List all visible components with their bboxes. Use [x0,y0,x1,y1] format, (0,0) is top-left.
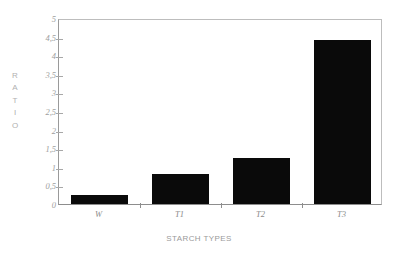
y-axis-tick-mark [56,187,63,188]
y-axis-tick-label: 3,5 [45,70,56,80]
x-axis-title: STARCH TYPES [0,234,398,243]
y-axis-tick-label: 1,5 [45,144,56,154]
x-axis-tick-label: W [95,209,102,219]
x-axis-tick-mark [221,203,222,208]
y-axis-tick-label: 4 [52,51,56,61]
y-axis-tick-mark [56,94,63,95]
y-axis-tick-mark [56,39,63,40]
y-axis-title-letter: A [12,82,17,94]
x-axis-tick-mark [140,203,141,208]
y-axis-tick-mark [56,132,63,133]
y-axis-title-letter: O [12,120,18,132]
y-axis-tick-labels: 00,511,522,533,544,55 [20,19,56,205]
y-axis-title-letter: T [13,95,18,107]
x-axis-tick-labels: WT1T2T3 [58,209,382,225]
plot-area [58,19,382,205]
bar-T2 [233,158,290,204]
y-axis-tick-label: 2,5 [45,107,56,117]
y-axis-tick-label: 1 [52,163,56,173]
bar-W [71,195,128,204]
y-axis-tick-label: 4,5 [45,33,56,43]
y-axis-tick-mark [56,113,63,114]
bars-layer [59,20,381,204]
y-axis-tick-label: 0 [52,200,56,210]
x-axis-tick-label: T1 [175,209,184,219]
y-axis-tick-label: 2 [52,126,56,136]
y-axis-title-letter: I [14,107,16,119]
y-axis-tick-label: 5 [52,14,56,24]
bar-T3 [314,40,371,204]
x-axis-tick-label: T2 [256,209,265,219]
y-axis-tick-mark [56,150,63,151]
y-axis-tick-label: 0,5 [45,181,56,191]
bar-chart-figure: R A T I O 00,511,522,533,544,55 WT1T2T3 … [0,0,398,256]
y-axis-tick-mark [56,57,63,58]
x-axis-tick-mark [302,203,303,208]
x-axis-tick-label: T3 [337,209,346,219]
y-axis-tick-mark [56,76,63,77]
y-axis-tick-label: 3 [52,88,56,98]
y-axis-tick-mark [56,169,63,170]
bar-T1 [152,174,209,204]
y-axis-title-letter: R [12,70,18,82]
